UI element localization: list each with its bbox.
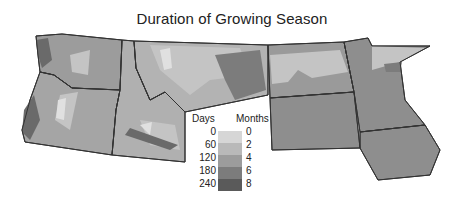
legend-months-label: 0 <box>246 126 252 137</box>
legend-months-label: 8 <box>246 178 252 189</box>
legend-days-label: 180 <box>199 165 216 176</box>
legend-months-header: Months <box>236 113 269 124</box>
legend-swatch-4 <box>218 179 242 191</box>
legend-days-label: 60 <box>205 139 216 150</box>
legend-swatch-1 <box>218 143 242 155</box>
legend-months-label: 4 <box>246 152 252 163</box>
legend-swatch-0 <box>218 131 242 143</box>
growing-season-map: Duration of Growing Season <box>0 0 464 224</box>
legend-days-label: 120 <box>199 152 216 163</box>
legend-days-label: 0 <box>210 126 216 137</box>
legend-swatch-3 <box>218 167 242 179</box>
legend-days-label: 240 <box>199 178 216 189</box>
legend-days-header: Days <box>192 113 215 124</box>
legend-months-label: 6 <box>246 165 252 176</box>
legend-swatch-2 <box>218 155 242 167</box>
region-south-dakota <box>270 92 360 150</box>
region-iowa <box>360 125 440 180</box>
legend: Days Months 0 60 120 180 240 0 2 4 6 8 <box>186 113 264 223</box>
legend-months-label: 2 <box>246 139 252 150</box>
